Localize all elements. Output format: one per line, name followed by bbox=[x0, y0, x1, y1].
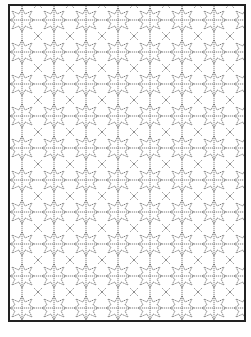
geometric-star-pattern bbox=[10, 6, 244, 320]
pattern-frame bbox=[8, 4, 246, 322]
